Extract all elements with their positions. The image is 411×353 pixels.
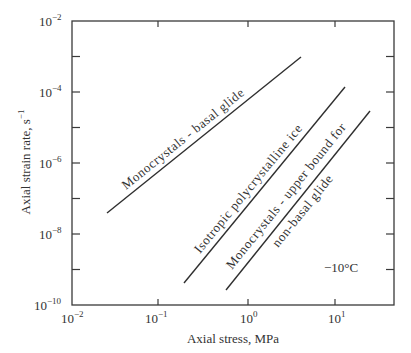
y-tick-label: 10−6 (39, 154, 62, 171)
chart: 10−2 10−4 10−6 10−8 10−10 10−2 10−1 100 … (0, 0, 411, 353)
y-tick-label: 10−8 (39, 225, 62, 242)
y-axis-title: Axial strain rate, s−1 (16, 110, 33, 215)
y-tick-label: 10−10 (34, 296, 62, 313)
line-basal-glide (107, 57, 301, 213)
temperature-annotation: −10°C (324, 260, 358, 275)
label-basal-glide: Monocrystals - basal glide (118, 85, 247, 193)
y-tick-label: 10−4 (39, 83, 62, 100)
x-tick-labels: 10−2 10−1 100 101 (61, 309, 346, 326)
x-tick-label: 10−1 (145, 309, 168, 326)
x-axis-title: Axial stress, MPa (187, 331, 279, 346)
x-tick-label: 100 (240, 309, 258, 326)
x-tick-label: 101 (328, 309, 346, 326)
y-tick-labels: 10−2 10−4 10−6 10−8 10−10 (34, 12, 62, 313)
x-tick-label: 10−2 (61, 309, 84, 326)
y-tick-label: 10−2 (39, 12, 62, 29)
